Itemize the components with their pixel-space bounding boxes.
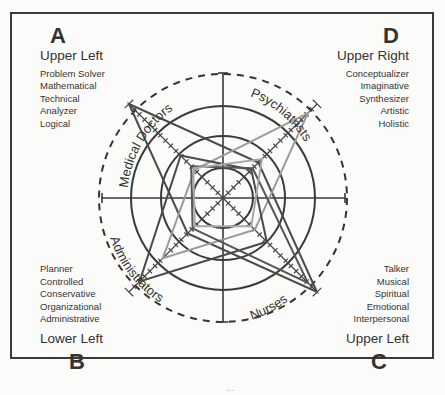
radar-chart: Medical Doctors Psychiatrists Administra… (0, 0, 445, 395)
caption: ... (120, 382, 340, 395)
label-administrators: Administrators (107, 234, 167, 305)
label-nurses: Nurses (248, 291, 291, 323)
